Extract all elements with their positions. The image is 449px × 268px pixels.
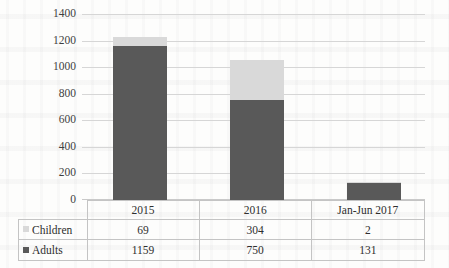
chart-page: 1400 1200 1000 800 600 400 200 0 xyxy=(0,0,449,268)
bar-column-2015[interactable] xyxy=(113,37,167,200)
cell-children-2016: 304 xyxy=(199,220,311,240)
legend-item-adults[interactable]: Adults xyxy=(19,240,88,260)
table-header-jan-jun-2017: Jan-Jun 2017 xyxy=(311,201,424,220)
bar-column-jan-jun-2017[interactable] xyxy=(347,182,401,200)
table-corner-cell xyxy=(19,201,88,220)
cell-children-2015: 69 xyxy=(87,220,199,240)
table-row: Adults 1159 750 131 xyxy=(19,240,425,260)
y-tick-label: 600 xyxy=(4,115,76,127)
table-row: Children 69 304 2 xyxy=(19,220,425,240)
bar-segment-adults-jan-jun-2017[interactable] xyxy=(347,183,401,200)
y-tick-label: 1200 xyxy=(4,35,76,47)
cell-children-jan-jun-2017: 2 xyxy=(311,220,424,240)
bar-segment-adults-2016[interactable] xyxy=(230,100,284,200)
table-header-2016: 2016 xyxy=(199,201,311,220)
y-tick-label: 1400 xyxy=(4,8,76,20)
gridline-1400 xyxy=(82,14,425,15)
legend-label-adults: Adults xyxy=(32,245,63,257)
y-tick-label: 200 xyxy=(4,168,76,180)
bar-segment-children-2016[interactable] xyxy=(230,60,284,100)
legend-item-children[interactable]: Children xyxy=(19,220,88,240)
y-tick-label: 1000 xyxy=(4,61,76,73)
cell-adults-2015: 1159 xyxy=(87,240,199,260)
y-tick-label: 400 xyxy=(4,141,76,153)
plot-area xyxy=(82,14,425,200)
bar-segment-adults-2015[interactable] xyxy=(113,46,167,200)
bar-column-2016[interactable] xyxy=(230,60,284,200)
chart-data-table: 2015 2016 Jan-Jun 2017 Children 69 304 2… xyxy=(18,200,425,261)
legend-label-children: Children xyxy=(32,224,72,236)
cell-adults-2016: 750 xyxy=(199,240,311,260)
cell-adults-jan-jun-2017: 131 xyxy=(311,240,424,260)
bar-segment-children-2015[interactable] xyxy=(113,37,167,46)
table-header-2015: 2015 xyxy=(87,201,199,220)
table-header-row: 2015 2016 Jan-Jun 2017 xyxy=(19,201,425,220)
children-swatch-icon xyxy=(23,226,29,232)
y-tick-label: 800 xyxy=(4,88,76,100)
y-axis: 1400 1200 1000 800 600 400 200 0 xyxy=(0,14,76,200)
adults-swatch-icon xyxy=(23,247,29,253)
